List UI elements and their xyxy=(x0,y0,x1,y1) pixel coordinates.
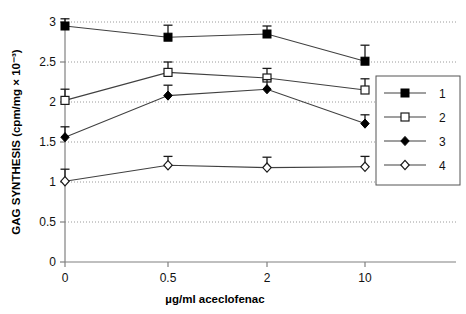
legend-label: 4 xyxy=(439,159,446,173)
marker-open-diamond xyxy=(263,163,271,172)
marker-filled-square xyxy=(164,33,172,41)
series-line xyxy=(65,26,365,61)
y-tick-label: 3 xyxy=(49,15,56,29)
marker-open-square xyxy=(164,68,172,76)
x-tick-label: 2 xyxy=(264,271,271,285)
series-line xyxy=(65,89,365,137)
marker-filled-diamond xyxy=(61,133,69,142)
y-tick-label: 1 xyxy=(49,175,56,189)
data-series-1 xyxy=(61,19,370,65)
y-tick-label: 0.5 xyxy=(39,215,56,229)
x-tick-label: 0 xyxy=(62,271,69,285)
marker-filled-square xyxy=(401,89,409,97)
marker-open-square xyxy=(361,86,369,94)
marker-filled-square xyxy=(61,22,69,30)
x-tick-label: 0.5 xyxy=(160,271,177,285)
x-tick-label: 10 xyxy=(358,271,372,285)
x-axis-title: µg/ml aceclofenac xyxy=(165,293,265,305)
series-line xyxy=(65,72,365,100)
marker-open-diamond xyxy=(61,177,69,186)
legend-label: 2 xyxy=(439,111,446,125)
series-line xyxy=(65,165,365,181)
legend-box xyxy=(376,76,460,185)
marker-filled-diamond xyxy=(164,91,172,100)
legend-label: 1 xyxy=(439,87,446,101)
y-tick-label: 0 xyxy=(49,255,56,269)
y-axis-title: GAG SYNTHESIS (cpm/mg × 10⁻³) xyxy=(10,49,22,234)
y-tick-label: 1.5 xyxy=(39,135,56,149)
legend-label: 3 xyxy=(439,135,446,149)
chart-figure: 00.511.522.5300.5210µg/ml aceclofenacGAG… xyxy=(0,0,466,314)
y-axis-ticks: 00.511.522.53 xyxy=(39,15,65,269)
legend: 1234 xyxy=(376,76,460,185)
marker-filled-diamond xyxy=(361,119,369,128)
x-axis-ticks: 00.5210 xyxy=(62,262,372,285)
marker-open-square xyxy=(401,113,409,121)
marker-filled-square xyxy=(361,57,369,65)
marker-open-diamond xyxy=(361,162,369,171)
data-series-4 xyxy=(61,156,370,185)
y-tick-label: 2 xyxy=(49,95,56,109)
marker-filled-square xyxy=(263,30,271,38)
marker-filled-diamond xyxy=(263,85,271,94)
data-series-2 xyxy=(61,62,370,104)
y-tick-label: 2.5 xyxy=(39,55,56,69)
marker-open-square xyxy=(61,96,69,104)
marker-open-diamond xyxy=(164,161,172,170)
gag-synthesis-line-chart: 00.511.522.5300.5210µg/ml aceclofenacGAG… xyxy=(0,0,466,314)
